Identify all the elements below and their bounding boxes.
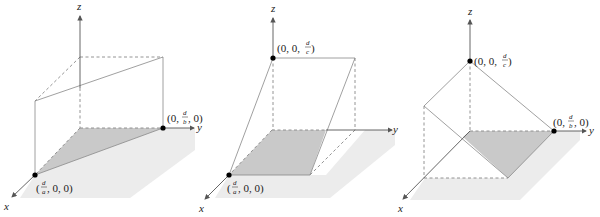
y-intercept-label: (0, d b , 0) — [167, 109, 203, 126]
x-axis-label: x — [397, 202, 403, 214]
x-intercept-point — [32, 172, 37, 177]
panel-1: z y x ( d a , 0, 0) (0, d b , 0) — [3, 0, 203, 212]
svg-text:, 0): , 0) — [188, 112, 203, 125]
svg-text:c: c — [306, 48, 310, 56]
z-axis-label: z — [76, 0, 82, 12]
z-axis-label: z — [270, 2, 276, 14]
plane-edge — [424, 61, 470, 106]
z-intercept-point — [270, 55, 275, 60]
diagram-canvas: z y x ( d a , 0, 0) (0, d b , 0) — [0, 0, 600, 217]
svg-text:b: b — [183, 118, 187, 126]
svg-text:d: d — [306, 39, 310, 47]
svg-text:): ) — [311, 42, 315, 55]
x-intercept-label: ( d a , 0, 0) — [227, 179, 264, 196]
z-axis-label: z — [467, 5, 473, 17]
z-intercept-label: (0, 0, d c ) — [277, 39, 315, 56]
svg-text:, 0, 0): , 0, 0) — [238, 182, 264, 195]
svg-text:d: d — [233, 179, 237, 187]
svg-text:a: a — [42, 188, 46, 196]
svg-text:d: d — [503, 52, 507, 60]
y-intercept-label: (0, d b , 0) — [553, 113, 589, 130]
plane-edge — [470, 61, 554, 131]
x-axis-label: x — [3, 200, 9, 212]
svg-text:): ) — [508, 55, 512, 68]
x-axis-label: x — [198, 202, 204, 214]
svg-text:d: d — [183, 109, 187, 117]
x-intercept-point — [226, 172, 231, 177]
svg-text:d: d — [42, 179, 46, 187]
x-intercept-label: ( d a , 0, 0) — [36, 179, 73, 196]
panel-2: z y x (0, 0, d c ) ( d a , 0, 0) — [198, 2, 398, 214]
svg-text:a: a — [233, 188, 237, 196]
svg-text:(0, 0,: (0, 0, — [474, 55, 497, 68]
y-intercept-point — [160, 125, 165, 130]
svg-text:, 0): , 0) — [574, 116, 589, 129]
svg-text:(: ( — [36, 182, 40, 195]
svg-text:b: b — [569, 122, 573, 130]
panel-3: z y x (0, 0, d c ) (0, d b , 0) — [397, 5, 594, 214]
svg-text:(: ( — [227, 182, 231, 195]
y-intercept-point — [551, 128, 556, 133]
z-intercept-point — [467, 58, 472, 63]
dashed-edge — [35, 57, 80, 101]
svg-text:d: d — [569, 113, 573, 121]
y-axis-label: y — [392, 123, 398, 135]
z-intercept-label: (0, 0, d c ) — [474, 52, 512, 69]
svg-text:(0, 0,: (0, 0, — [277, 42, 300, 55]
svg-text:(0,: (0, — [167, 112, 179, 125]
plane-edge — [35, 57, 163, 101]
svg-text:(0,: (0, — [553, 116, 565, 129]
svg-text:c: c — [503, 61, 507, 69]
y-axis-label: y — [588, 124, 594, 136]
svg-text:, 0, 0): , 0, 0) — [47, 182, 73, 195]
